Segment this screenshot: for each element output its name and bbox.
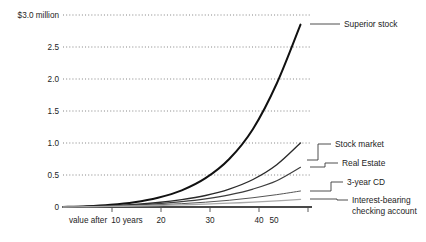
x-tick-label-10: 10 years <box>111 216 142 225</box>
leader-3-year-cd <box>310 182 343 191</box>
y-tick-label-3.0: $3.0 million <box>18 11 60 20</box>
x-tick-label-30: 30 <box>205 216 215 225</box>
leader-stock-market <box>307 144 331 160</box>
y-axis-tick-labels: $3.0 million 2.5 2.0 1.5 1.0 0.5 0 <box>18 11 60 212</box>
leader-real-estate <box>310 163 338 167</box>
investment-growth-chart: $3.0 million 2.5 2.0 1.5 1.0 0.5 0 value… <box>0 0 426 242</box>
series-label-stock-market: Stock market <box>335 139 385 149</box>
gridlines <box>63 15 310 175</box>
leader-checking-account <box>310 199 348 200</box>
series-curve-superior-stock <box>63 25 301 207</box>
series-label-checking-line2: checking account <box>352 206 417 216</box>
series-label-superior-stock: Superior stock <box>344 19 398 29</box>
series-curves <box>63 25 301 207</box>
x-axis-prefix-label: value after <box>69 216 108 225</box>
series-label-checking-line1: Interest-bearing <box>352 195 411 205</box>
series-labels: Superior stock Stock market Real Estate … <box>335 19 417 216</box>
x-axis-tick-labels: value after 10 years 20 30 40 50 <box>69 216 279 225</box>
y-tick-label-1.0: 1.0 <box>48 139 60 148</box>
y-tick-label-0: 0 <box>54 203 59 212</box>
x-tick-label-20: 20 <box>156 216 166 225</box>
series-label-real-estate: Real Estate <box>342 158 386 168</box>
x-tick-label-40: 40 <box>254 216 264 225</box>
y-tick-label-1.5: 1.5 <box>48 107 60 116</box>
series-label-3-year-cd: 3-year CD <box>347 177 385 187</box>
chart-canvas: $3.0 million 2.5 2.0 1.5 1.0 0.5 0 value… <box>0 0 426 242</box>
y-tick-label-2.0: 2.0 <box>48 75 60 84</box>
x-tick-label-50: 50 <box>269 216 279 225</box>
y-tick-label-2.5: 2.5 <box>48 43 60 52</box>
leader-lines <box>307 24 348 200</box>
y-tick-label-0.5: 0.5 <box>48 171 60 180</box>
